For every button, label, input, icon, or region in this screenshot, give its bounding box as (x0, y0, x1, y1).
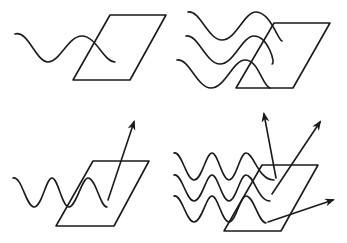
incident-wave-1 (188, 12, 282, 41)
incident-wave (15, 34, 115, 62)
incident-wave-1 (174, 153, 274, 180)
emitted-ray-arrow-3 (268, 200, 333, 222)
surface-plane (56, 161, 149, 226)
surface-plane (236, 23, 330, 88)
incident-wave (13, 178, 107, 207)
diagram-canvas (0, 0, 347, 243)
incident-wave-3 (174, 196, 266, 223)
panel-top-right (177, 12, 330, 88)
panel-bottom-left (13, 122, 149, 226)
incident-wave-2 (186, 36, 273, 64)
panel-bottom-right (174, 114, 333, 231)
panel-top-left (15, 15, 166, 80)
surface-plane (73, 15, 166, 80)
emitted-ray-arrow-2 (272, 122, 320, 194)
incident-wave-2 (174, 175, 270, 201)
emitted-ray-arrow-1 (264, 114, 276, 178)
